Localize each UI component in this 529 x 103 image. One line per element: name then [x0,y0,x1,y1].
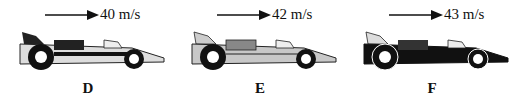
car-panel-d: 40 m/s D [0,0,176,103]
car-panel-e: 42 m/s E [172,0,348,103]
speed-label: 43 m/s [444,6,484,23]
race-car-icon [14,30,170,72]
speed-label: 40 m/s [100,6,140,23]
race-car-icon [186,30,342,72]
speed-label: 42 m/s [272,6,312,23]
car-label: E [172,80,348,97]
velocity-arrow-icon [45,9,99,21]
car-label: F [344,80,520,97]
velocity-arrow-icon [389,9,443,21]
velocity-arrow-icon [217,9,271,21]
car-panel-f: 43 m/s F [344,0,520,103]
race-car-icon [358,30,514,72]
car-label: D [0,80,176,97]
